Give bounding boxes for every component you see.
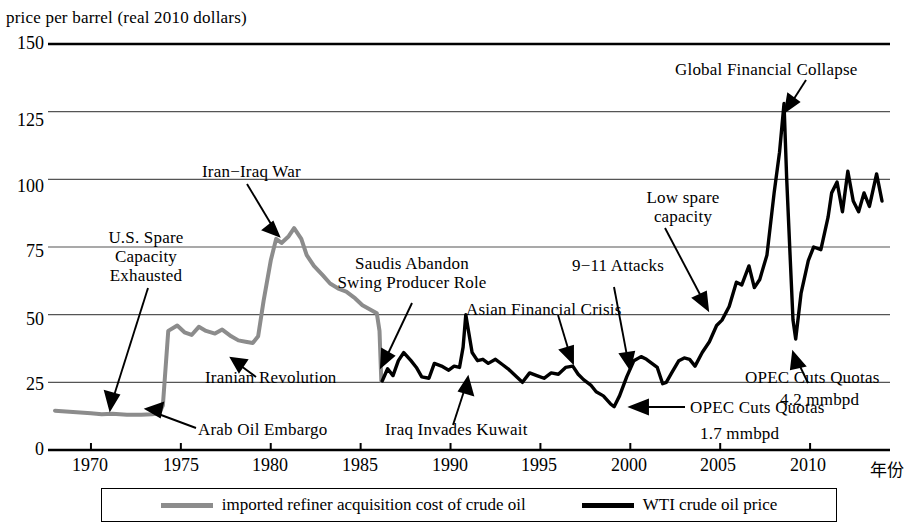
annotation-global-financial-collapse: Global Financial Collapse [675, 60, 858, 79]
annotation-iraq-invades-kuwait: Iraq Invades Kuwait [385, 420, 528, 439]
annotation-low-spare-capacity: Low spare capacity [630, 188, 736, 226]
legend-label-imported-refiner: imported refiner acquisition cost of cru… [222, 495, 526, 515]
annotation-nine-eleven-attacks: 9−11 Attacks [572, 256, 664, 275]
annotation-asian-financial-crisis: Asian Financial Crisis [466, 300, 622, 319]
annotation-saudis-line2: Swing Producer Role [322, 273, 502, 292]
legend-item-wti: WTI crude oil price [582, 495, 778, 515]
annotation-us-spare-capacity: U.S. Spare Capacity Exhausted [88, 228, 204, 285]
legend: imported refiner acquisition cost of cru… [101, 488, 837, 522]
annotation-arab-oil-embargo: Arab Oil Embargo [198, 420, 327, 439]
annotation-iran-iraq-war: Iran−Iraq War [202, 162, 301, 181]
annotation-iranian-revolution: Iranian Revolution [205, 368, 337, 387]
legend-swatch-black-icon [582, 503, 634, 508]
annotation-saudis-abandon-swing: Saudis Abandon Swing Producer Role [322, 254, 502, 292]
annotation-opec-cuts-17-line2: 1.7 mmbpd [700, 424, 779, 443]
annotation-us-spare-line3: Exhausted [88, 266, 204, 285]
annotation-low-spare-line2: capacity [630, 207, 736, 226]
oil-price-chart: price per barrel (real 2010 dollars) 150… [0, 0, 923, 526]
legend-label-wti: WTI crude oil price [643, 495, 778, 515]
annotation-saudis-line1: Saudis Abandon [322, 254, 502, 273]
legend-swatch-gray-icon [161, 503, 213, 508]
legend-item-imported-refiner: imported refiner acquisition cost of cru… [161, 495, 526, 515]
annotation-opec-cuts-42-line2: 4.2 mmbpd [780, 390, 859, 409]
annotation-us-spare-line2: Capacity [88, 247, 204, 266]
annotation-opec-cuts-42-line1: OPEC Cuts Quotas [745, 368, 880, 387]
annotation-low-spare-line1: Low spare [630, 188, 736, 207]
annotation-us-spare-line1: U.S. Spare [88, 228, 204, 247]
